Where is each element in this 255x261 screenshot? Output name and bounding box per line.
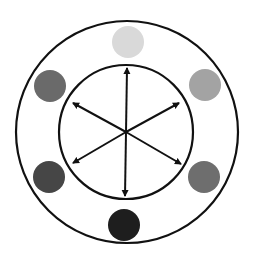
diagram-canvas <box>0 0 255 261</box>
arrows-group <box>73 68 181 196</box>
node-bottom <box>108 209 140 241</box>
node-lower-right <box>188 161 220 193</box>
arrow-upper-right-icon <box>126 103 179 132</box>
color-wheel-diagram <box>0 0 255 261</box>
node-top <box>112 26 144 58</box>
arrow-up-icon <box>126 68 127 132</box>
arrow-down-icon <box>125 132 126 196</box>
arrow-lower-right-icon <box>126 132 181 164</box>
arrow-lower-left-icon <box>73 132 126 163</box>
arrow-upper-left-icon <box>73 103 126 132</box>
node-lower-left <box>33 161 65 193</box>
node-upper-right <box>189 69 221 101</box>
node-upper-left <box>34 70 66 102</box>
